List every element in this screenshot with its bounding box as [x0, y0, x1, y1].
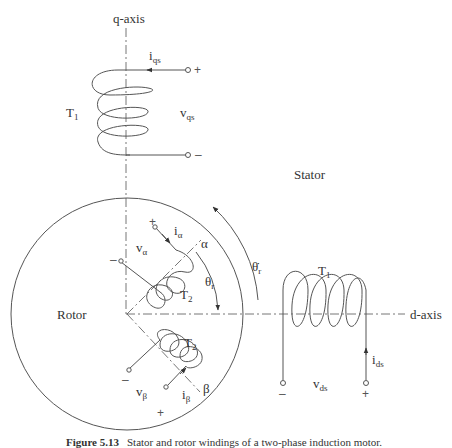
vqs-label: vqs — [180, 106, 195, 122]
figure-caption: Figure 5.13Stator and rotor windings of … — [66, 436, 382, 448]
figure-number: Figure 5.13 — [66, 436, 119, 448]
rotor-beta-coil — [127, 314, 202, 392]
alpha-plus-sign: + — [149, 216, 156, 228]
alpha-minus-sign: – — [110, 254, 117, 266]
beta-axis-label: β — [203, 382, 210, 395]
beta-plus-sign: + — [157, 407, 164, 419]
i-beta-label: iβ — [182, 388, 190, 404]
i-alpha-label: iα — [174, 224, 182, 240]
v-beta-label: vβ — [136, 385, 147, 401]
d-axis-label: d-axis — [410, 308, 442, 321]
alpha-turns-label: T2 — [180, 288, 192, 304]
iqs-label: iqs — [149, 49, 161, 65]
d-turns-label: T1 — [318, 264, 330, 280]
rotor-label: Rotor — [57, 308, 87, 321]
theta-r-label: θr — [205, 275, 214, 291]
v-alpha-label: vα — [136, 241, 147, 257]
d-minus-sign: – — [279, 388, 286, 400]
q-turns-label: T1 — [66, 106, 78, 122]
beta-minus-sign: – — [122, 374, 129, 386]
stator-q-coil — [92, 68, 190, 158]
q-minus-sign: – — [195, 149, 202, 161]
q-axis-label: q-axis — [113, 12, 145, 25]
beta-turns-label: T2 — [184, 336, 196, 352]
caption-text: Stator and rotor windings of a two-phase… — [127, 436, 382, 448]
stator-d-coil — [281, 271, 369, 385]
stator-label: Stator — [294, 168, 325, 181]
q-plus-sign: + — [194, 64, 201, 76]
theta-r-dot-label: θ̇r — [252, 260, 261, 276]
theta-r-dot-arc — [213, 207, 258, 300]
vds-label: vds — [313, 377, 328, 393]
alpha-axis-label: α — [201, 237, 208, 250]
ids-label: ids — [372, 353, 384, 369]
d-plus-sign: + — [362, 388, 369, 400]
